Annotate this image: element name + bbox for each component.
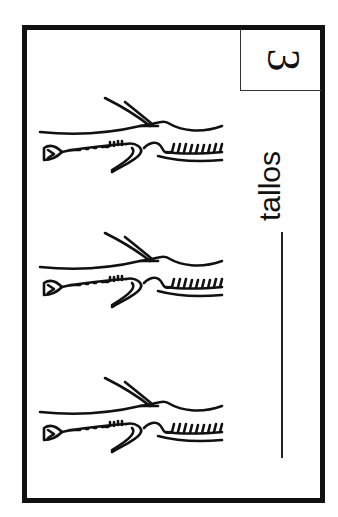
card-word: tallos — [253, 151, 287, 221]
stem-illustration-2 — [40, 225, 240, 315]
card-number: 3 — [259, 49, 305, 72]
word-container: tallos — [252, 138, 288, 234]
number-box: 3 — [240, 29, 322, 91]
stem-illustration-1 — [40, 90, 240, 180]
number-container: 3 — [241, 29, 323, 91]
writing-line — [281, 232, 283, 458]
stem-illustration-3 — [40, 370, 240, 460]
